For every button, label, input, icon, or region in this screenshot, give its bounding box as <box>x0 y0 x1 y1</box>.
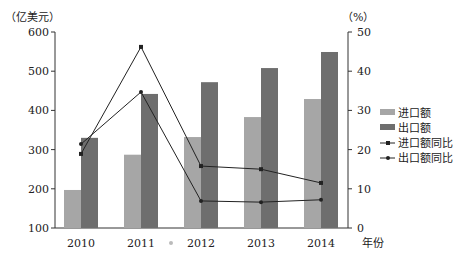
x-tick-label: 2013 <box>247 237 275 250</box>
legend-label: 进口额同比 <box>398 137 453 150</box>
x-tick-label: 2010 <box>67 237 95 250</box>
x-tick-label: 2012 <box>187 237 215 250</box>
left-tick-label: 400 <box>28 104 49 117</box>
x-tick-label: 2011 <box>127 237 155 250</box>
bar-export <box>321 52 338 228</box>
left-tick-label: 300 <box>28 144 49 157</box>
left-axis-title: （亿美元） <box>5 11 60 24</box>
right-tick-label: 50 <box>357 26 371 39</box>
bar-import <box>304 99 321 228</box>
right-tick-label: 30 <box>357 104 371 117</box>
right-tick-label: 0 <box>357 222 364 235</box>
bar-import <box>64 190 81 228</box>
right-tick-label: 20 <box>357 144 371 157</box>
left-tick-label: 200 <box>28 183 49 196</box>
legend-label: 出口额 <box>398 121 431 135</box>
right-axis-title: （%） <box>342 11 374 24</box>
marker-circle <box>199 199 203 203</box>
legend-label: 进口额 <box>398 107 431 120</box>
chart: 10020030040050060001020304050（亿美元）（%）201… <box>0 0 462 263</box>
marker-square <box>259 167 263 171</box>
right-tick-label: 10 <box>357 183 371 196</box>
x-axis-title: 年份 <box>362 236 384 250</box>
marker-square <box>199 164 203 168</box>
marker-square <box>79 152 83 156</box>
marker-circle <box>319 198 323 202</box>
marker-square <box>319 181 323 185</box>
bar-export <box>261 68 278 228</box>
marker-circle <box>259 200 263 204</box>
left-tick-label: 100 <box>28 222 49 235</box>
chart-svg: 10020030040050060001020304050（亿美元）（%）201… <box>0 0 462 263</box>
bar-export <box>201 82 218 228</box>
bar-export <box>81 138 98 228</box>
legend-label: 出口额同比 <box>398 151 453 165</box>
legend-swatch <box>380 109 395 115</box>
dot-mark <box>169 241 173 245</box>
marker-circle <box>139 90 143 94</box>
legend-marker <box>386 156 390 160</box>
legend-swatch <box>380 124 395 130</box>
bar-import <box>184 137 201 228</box>
bar-export <box>141 94 158 228</box>
marker-square <box>139 45 143 49</box>
bar-import <box>244 117 261 228</box>
x-tick-label: 2014 <box>307 237 335 250</box>
left-tick-label: 600 <box>28 26 49 39</box>
left-tick-label: 500 <box>28 65 49 78</box>
marker-circle <box>79 142 83 146</box>
right-tick-label: 40 <box>357 65 371 78</box>
bar-import <box>124 155 141 228</box>
legend-marker <box>386 141 390 145</box>
